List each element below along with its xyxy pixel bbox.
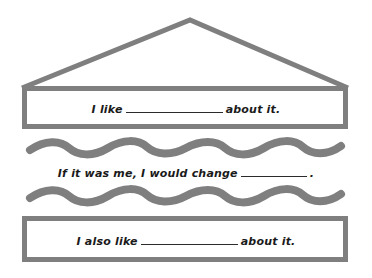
prompt-middle-blank[interactable] <box>241 166 307 177</box>
wavy-divider-bottom <box>30 189 341 202</box>
prompt-bottom-trail: about it. <box>241 235 296 248</box>
prompt-top-blank[interactable] <box>126 102 223 113</box>
house-graphic-organizer: I likeabout it. If it was me, I would ch… <box>0 0 372 278</box>
prompt-top: I likeabout it. <box>0 102 372 116</box>
prompt-middle-trail: . <box>310 167 314 180</box>
prompt-middle: If it was me, I would change. <box>0 166 372 180</box>
prompt-top-lead: I like <box>92 103 123 116</box>
roof-triangle <box>22 20 348 88</box>
prompt-bottom-blank[interactable] <box>141 234 238 245</box>
wavy-divider-top <box>30 141 341 154</box>
prompt-top-trail: about it. <box>226 103 281 116</box>
prompt-bottom: I also likeabout it. <box>0 234 372 248</box>
prompt-bottom-lead: I also like <box>77 235 138 248</box>
prompt-middle-lead: If it was me, I would change <box>58 167 238 180</box>
